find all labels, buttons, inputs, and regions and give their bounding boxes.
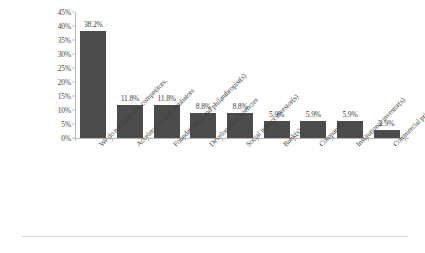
- bar-slot[interactable]: 5.9%: [332, 12, 369, 138]
- x-axis-category-label: We do not have any competitors.: [97, 142, 103, 148]
- bar-value-label: 5.9%: [306, 110, 321, 119]
- x-axis-category-label: Foundation(s) and philanthropist(s): [171, 142, 177, 148]
- bar-slot[interactable]: 5.9%: [295, 12, 332, 138]
- footer-divider: [22, 236, 408, 237]
- x-axis-category-label: Accelerators and incubators: [134, 142, 140, 148]
- bar-slot[interactable]: 38.2%: [75, 12, 112, 138]
- bar[interactable]: [80, 31, 106, 138]
- x-axis-category-label: Bank(s): [281, 142, 287, 148]
- x-axis-category-label: Development Agencies: [207, 142, 213, 148]
- bar-value-label: 38.2%: [84, 20, 103, 29]
- bar-chart-figure: 0%5%10%15%20%25%30%35%40%45% 38.2%11.8%1…: [0, 0, 425, 253]
- x-axis-category-label: Institutional investor(s): [354, 142, 360, 148]
- bar-value-label: 5.9%: [342, 110, 357, 119]
- x-axis-category-label: Commercial private investors: [391, 142, 397, 148]
- x-axis-category-label: Social impact investor(s): [244, 142, 250, 148]
- x-axis-category-labels: We do not have any competitors.Accelerat…: [75, 139, 405, 239]
- x-axis-category-label: Companies: [317, 142, 323, 148]
